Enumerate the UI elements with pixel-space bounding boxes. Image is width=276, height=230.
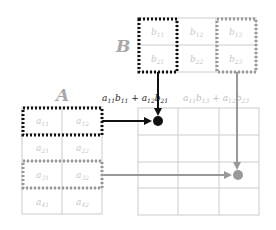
cell-b21: b21 <box>151 54 164 65</box>
cell-a21: a21 <box>36 143 49 154</box>
matrix-a-label: A <box>54 85 69 105</box>
cell-b13: b13 <box>229 27 243 38</box>
formula-c13: a11b13 + a12b23 <box>183 93 249 104</box>
cell-a12: a12 <box>76 116 89 127</box>
result-dot-c11 <box>153 116 163 126</box>
cell-b23: b23 <box>229 54 243 65</box>
matrix-b-cells: b11 b12 b13 b21 b22 b23 <box>151 27 243 65</box>
cell-a22: a22 <box>76 143 89 154</box>
result-dot-c33 <box>233 170 243 180</box>
cell-a32: a32 <box>76 170 89 181</box>
cell-a41: a41 <box>36 197 49 208</box>
matrix-multiplication-diagram: B b11 b12 b13 b21 b22 b23 A a11 a12 a21 … <box>0 0 276 230</box>
matrix-b-label: B <box>115 36 130 56</box>
matrix-a-grid <box>22 107 102 214</box>
cell-b12: b12 <box>190 27 204 38</box>
cell-b11: b11 <box>151 27 164 38</box>
cell-a42: a42 <box>76 197 89 208</box>
cell-b22: b22 <box>190 54 204 65</box>
cell-a11: a11 <box>36 116 49 127</box>
cell-a31: a31 <box>36 170 49 181</box>
